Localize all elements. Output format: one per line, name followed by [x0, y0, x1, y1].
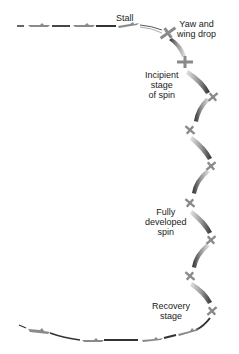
aircraft-icon — [73, 23, 95, 27]
aircraft-icon — [28, 23, 50, 27]
label-line: Incipient — [145, 70, 179, 80]
label-line: developed — [145, 217, 187, 227]
stall-arc — [140, 25, 162, 33]
recovery-stage-label: Recovery stage — [152, 301, 190, 321]
recovery-path — [19, 318, 210, 342]
incipient-stage-label: Incipient stage of spin — [145, 70, 179, 100]
aircraft-icon — [82, 338, 104, 342]
spin-diagram — [0, 0, 239, 354]
yaw-wing-drop-label: Yaw and wing drop — [177, 19, 216, 39]
label-line: stage — [152, 311, 190, 321]
label-line: stage — [145, 80, 179, 90]
label-line: spin — [145, 227, 187, 237]
label-line: of spin — [145, 90, 179, 100]
aircraft-icon — [182, 122, 198, 137]
stall-label: Stall — [116, 13, 134, 23]
label-line: Recovery — [152, 301, 190, 311]
label-line: wing drop — [177, 29, 216, 39]
ribbon-segment — [169, 38, 186, 57]
label-line: Yaw and — [177, 19, 216, 29]
aircraft-icon — [142, 337, 163, 342]
aircraft-icon — [182, 268, 198, 283]
aircraft-icon — [28, 328, 50, 334]
fully-developed-spin-label: Fully developed spin — [145, 207, 187, 237]
aircraft-icon — [204, 303, 220, 318]
aircraft-yaw-icon — [157, 23, 179, 43]
spin-aircraft — [182, 89, 221, 318]
spin-ribbon — [186, 70, 212, 304]
aircraft-incipient-icon — [177, 56, 193, 68]
label-line: Fully — [145, 207, 187, 217]
